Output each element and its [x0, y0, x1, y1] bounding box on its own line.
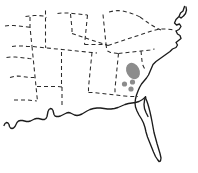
occurrence-dot-2: [130, 79, 135, 84]
distribution-map-figure: [0, 0, 198, 173]
occurrence-dot-3: [128, 86, 133, 91]
occurrence-dot-1: [122, 81, 127, 86]
map-canvas: [0, 0, 198, 173]
